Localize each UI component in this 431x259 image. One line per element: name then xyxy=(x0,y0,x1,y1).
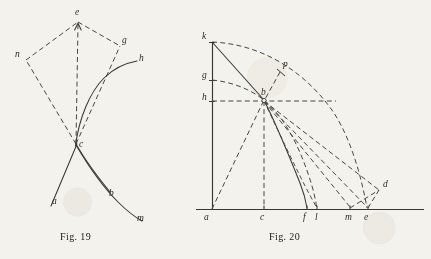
fig20-curve-b-l xyxy=(264,101,317,208)
fig20-label-p: p xyxy=(283,60,288,70)
fig20-ray-b-e xyxy=(264,101,367,207)
fig20-caption: Fig. 20 xyxy=(269,231,300,242)
fig20-group xyxy=(196,42,424,210)
fig20-line-p-b xyxy=(264,72,280,101)
fig19-label-n: n xyxy=(15,50,20,60)
fig20-curve-b-f xyxy=(264,100,307,208)
fig19-label-a: a xyxy=(52,197,57,207)
fig19-label-h: h xyxy=(139,54,144,64)
figure-plate: e g n h c a b m Fig. 19 k p g h b d a c … xyxy=(0,0,431,259)
fig20-label-h: h xyxy=(202,93,207,103)
fig20-label-e: e xyxy=(364,213,368,223)
fig19-curve-c-m xyxy=(76,145,142,221)
fig19-dashed-c-g xyxy=(76,46,120,144)
fig20-label-k: k xyxy=(202,32,206,42)
fig20-arc-k-e xyxy=(212,42,367,208)
fig20-label-m: m xyxy=(345,213,352,223)
fig20-line-e-d xyxy=(368,190,379,208)
fig19-dashed-c-n xyxy=(26,60,76,144)
fig20-label-a: a xyxy=(204,213,209,223)
fig20-label-b: b xyxy=(261,88,266,98)
fig19-dashed-n-e xyxy=(26,22,78,60)
fig19-group xyxy=(26,22,142,221)
fig19-caption: Fig. 19 xyxy=(60,231,91,242)
fig20-label-l: l xyxy=(315,213,318,223)
fig20-ray-b-m xyxy=(264,101,350,207)
fig20-point-b xyxy=(262,98,266,102)
fig20-label-c: c xyxy=(260,213,264,223)
fig20-label-f: f xyxy=(303,213,306,223)
fig19-dashed-e-g xyxy=(78,22,120,46)
fig19-label-g: g xyxy=(122,36,127,46)
fig20-line-m-d xyxy=(350,190,379,208)
fig19-label-b: b xyxy=(109,189,114,199)
fig19-label-c: c xyxy=(79,140,83,150)
fig19-line-c-b xyxy=(77,145,111,192)
fig19-label-e: e xyxy=(75,8,79,18)
fig20-label-d: d xyxy=(383,180,388,190)
fig19-label-m: m xyxy=(137,214,144,224)
fig19-dashed-c-e xyxy=(76,24,78,144)
fig20-dashed-a-b xyxy=(212,100,264,209)
fig20-label-g: g xyxy=(202,71,207,81)
fig19-curve-c-h xyxy=(76,61,138,146)
fig20-ray-b-d xyxy=(264,101,379,190)
